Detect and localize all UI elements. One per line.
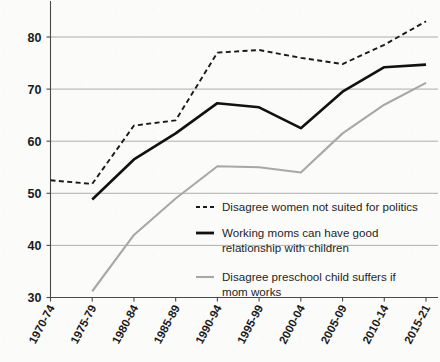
legend-label-2-line2: mom works [222, 285, 281, 298]
y-tick-label-60: 60 [28, 135, 42, 149]
x-tick-label-2000-04: 2000-04 [277, 302, 308, 345]
x-tick-label-2005-09: 2005-09 [318, 303, 348, 346]
line-chart: 304050607080 1970-741975-791980-841985-8… [0, 0, 440, 362]
x-tick-label-1990-94: 1990-94 [193, 302, 224, 345]
x-tick-label-2015-21: 2015-21 [402, 302, 433, 345]
y-tick-label-80: 80 [28, 31, 42, 45]
series-line-1 [92, 65, 426, 200]
x-tick-label-2010-14: 2010-14 [360, 302, 391, 345]
y-tick-label-70: 70 [28, 83, 42, 97]
x-tick-label-1975-79: 1975-79 [68, 303, 98, 346]
y-tick-label-40: 40 [28, 239, 42, 253]
y-tick-labels-group: 304050607080 [28, 31, 51, 306]
x-tick-labels-group: 1970-741975-791980-841985-891990-941995-… [26, 298, 432, 346]
legend-group: Disagree women not suited for politicsWo… [196, 200, 418, 298]
legend-label-1-line2: relationship with children [222, 241, 349, 254]
x-tick-label-1980-84: 1980-84 [110, 302, 141, 345]
y-tick-label-30: 30 [28, 291, 42, 305]
series-line-0 [51, 21, 427, 184]
y-tick-label-50: 50 [28, 187, 42, 201]
x-tick-label-1970-74: 1970-74 [26, 302, 57, 345]
x-tick-label-1995-99: 1995-99 [235, 303, 265, 346]
series-line-2 [92, 83, 426, 291]
chart-canvas: 304050607080 1970-741975-791980-841985-8… [0, 0, 440, 362]
legend-label-2-line1: Disagree preschool child suffers if [222, 270, 397, 283]
legend-label-0-line1: Disagree women not suited for politics [222, 200, 418, 213]
legend-label-1-line1: Working moms can have good [222, 226, 378, 239]
x-tick-label-1985-89: 1985-89 [152, 303, 182, 346]
